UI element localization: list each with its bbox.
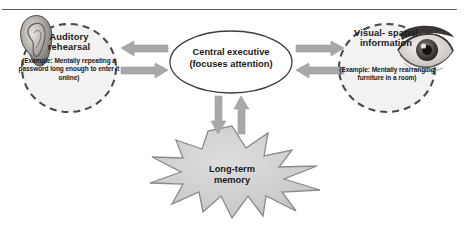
central-executive-label: Central executive (focuses attention): [175, 47, 287, 70]
arrow-central-to-visual: [296, 41, 344, 56]
arrow-longterm-to-central: [234, 96, 249, 134]
arrow-central-to-auditory: [121, 41, 168, 56]
auditory-rehearsal-example: (Example: Mentally repeating a password …: [17, 57, 121, 82]
long-term-memory-label: Long-term memory: [190, 164, 274, 187]
visual-spatial-heading: Visual- spatial information: [346, 28, 426, 49]
arrow-auditory-to-central: [121, 63, 168, 78]
visual-spatial-example: (Example: Mentally rearranging furniture…: [337, 66, 437, 83]
auditory-rehearsal-heading: Auditory rehearsal: [28, 32, 110, 53]
working-memory-diagram: Auditory rehearsal (Example: Mentally re…: [0, 0, 465, 225]
